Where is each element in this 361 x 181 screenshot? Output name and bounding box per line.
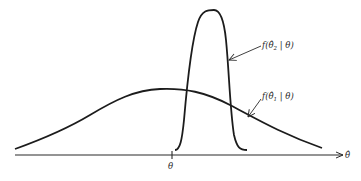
wide-curve-label: f(θ̂1 | θ) [261, 91, 294, 102]
wide-curve-leader-arrow [248, 99, 261, 117]
density-diagram: f(θ̂2 | θ) f(θ̂1 | θ) θ θ̂ [0, 0, 361, 181]
narrow-curve-leader-arrow [229, 46, 261, 60]
narrow-curve-label: f(θ̂2 | θ) [261, 40, 294, 51]
theta-hat-axis-label: θ̂ [345, 150, 350, 160]
narrow-density-curve [175, 10, 247, 150]
theta-tick-label: θ [168, 161, 173, 171]
